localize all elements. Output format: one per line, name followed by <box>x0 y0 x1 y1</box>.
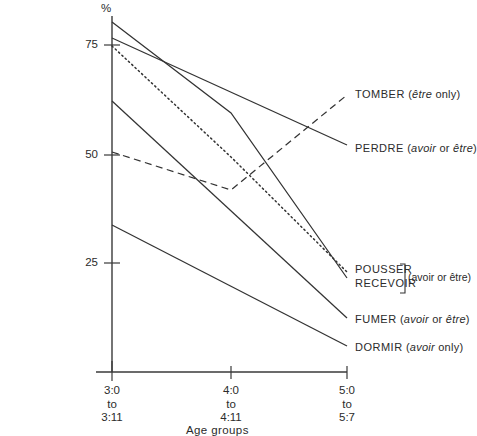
x-group-3-top: 5:0 <box>307 384 387 398</box>
x-group-3-mid: to <box>307 398 387 412</box>
dormir-aux: avoir <box>410 341 435 353</box>
dormir-verb: DORMIR <box>355 341 403 353</box>
series-line-pousser <box>112 46 347 272</box>
dormir-tail: only <box>438 341 459 353</box>
pousser-recevoir-aux-1: avoir <box>412 271 435 283</box>
y-axis-unit-label: % <box>101 2 111 14</box>
series-label-dormir: DORMIR (avoir only) <box>355 341 463 353</box>
pousser-recevoir-sep: or <box>437 271 446 283</box>
y-tick-label-25: 25 <box>62 256 98 268</box>
perdre-aux-1: avoir <box>411 142 436 154</box>
x-group-1-mid: to <box>72 398 152 412</box>
x-group-1-top: 3:0 <box>72 384 152 398</box>
x-group-1-bottom: 3:11 <box>72 411 152 425</box>
x-axis-title: Age groups <box>186 424 249 436</box>
x-group-2-top: 4:0 <box>191 384 271 398</box>
pousser-recevoir-close-paren: ) <box>468 271 472 283</box>
x-group-3-bottom: 5:7 <box>307 411 387 425</box>
fumer-sep: or <box>432 313 442 325</box>
y-tick-label-50: 50 <box>62 148 98 160</box>
x-group-label-3: 5:0 to 5:7 <box>307 384 387 425</box>
tomber-tail: only <box>435 88 456 100</box>
x-group-label-2: 4:0 to 4:11 <box>191 384 271 425</box>
x-group-label-1: 3:0 to 3:11 <box>72 384 152 425</box>
series-label-tomber: TOMBER (être only) <box>355 88 460 100</box>
perdre-sep: or <box>439 142 449 154</box>
fumer-verb: FUMER <box>355 313 397 325</box>
tomber-aux: être <box>412 88 432 100</box>
dormir-close-paren: ) <box>459 341 463 353</box>
fumer-aux-2: être <box>446 313 466 325</box>
x-group-2-bottom: 4:11 <box>191 411 271 425</box>
perdre-close-paren: ) <box>473 142 477 154</box>
series-label-perdre: PERDRE (avoir or être) <box>355 142 477 154</box>
fumer-aux-1: avoir <box>404 313 429 325</box>
series-line-tomber <box>112 95 347 190</box>
fumer-close-paren: ) <box>466 313 470 325</box>
series-line-recevoir <box>112 22 347 278</box>
pousser-recevoir-aux-2: être <box>449 271 467 283</box>
series-line-perdre <box>112 38 347 145</box>
perdre-aux-2: être <box>453 142 473 154</box>
tomber-verb: TOMBER <box>355 88 405 100</box>
perdre-verb: PERDRE <box>355 142 404 154</box>
x-group-2-mid: to <box>191 398 271 412</box>
series-label-fumer: FUMER (avoir or être) <box>355 313 470 325</box>
pousser-recevoir-aux-group: (avoir or être) <box>408 271 471 283</box>
tomber-close-paren: ) <box>457 88 461 100</box>
y-tick-label-75: 75 <box>62 38 98 50</box>
